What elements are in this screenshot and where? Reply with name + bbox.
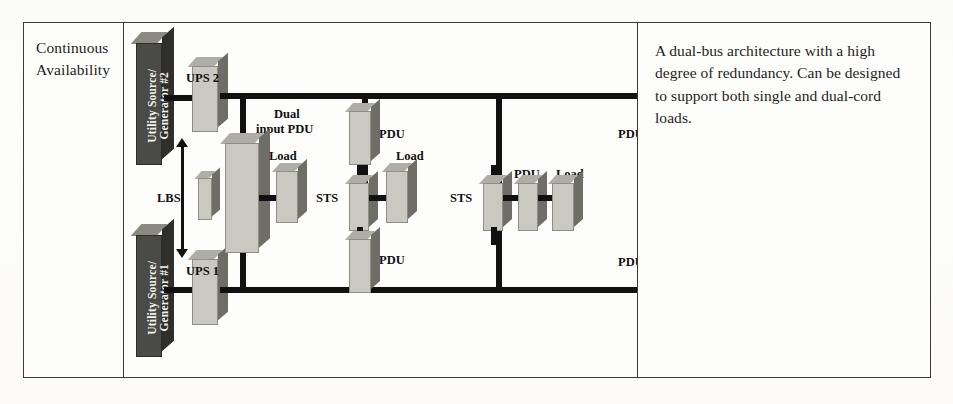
utility-source-1-box: Utility Source/ Generator #1 bbox=[136, 235, 162, 357]
diagram-cell: Utility Source/ Generator #2 Utility Sou… bbox=[124, 23, 638, 377]
sts-left-front-face bbox=[349, 183, 369, 231]
ups-2-side-face bbox=[218, 53, 228, 128]
pdu-bottom-left-box bbox=[349, 239, 371, 293]
load-center-right-side-face bbox=[574, 171, 583, 227]
load-left-side-face bbox=[298, 159, 307, 219]
pdu-top-left-side-face bbox=[371, 99, 380, 161]
lbs-label: LBS bbox=[157, 191, 181, 205]
pdu-top-right-label: PDU bbox=[618, 127, 638, 141]
pdu-mid-right-box bbox=[518, 183, 538, 231]
sts-right-output-stub bbox=[503, 195, 519, 201]
dual-input-pdu-label-line-1: Dual bbox=[274, 107, 300, 121]
dual-input-pdu-front-face bbox=[225, 143, 259, 253]
ups-1-label: UPS 1 bbox=[186, 264, 219, 278]
sts-right-front-face bbox=[483, 183, 503, 231]
dual-input-pdu-side-face bbox=[259, 128, 270, 248]
description-text: A dual-bus architecture with a high degr… bbox=[655, 40, 914, 129]
lbs-front-face bbox=[198, 178, 212, 220]
ups-2-label: UPS 2 bbox=[186, 71, 219, 85]
load-center-right-front-face bbox=[552, 183, 574, 231]
load-center-left-box bbox=[386, 171, 408, 223]
utility-source-2-box: Utility Source/ Generator #2 bbox=[136, 43, 162, 165]
pdu-bottom-right-label: PDU bbox=[618, 255, 638, 269]
dual-input-pdu-box bbox=[225, 143, 259, 253]
pdu-top-left-front-face bbox=[349, 111, 371, 165]
row-label-line-2: Availability bbox=[36, 59, 123, 81]
pdu-mid-right-front-face bbox=[518, 183, 538, 231]
sts-right-label: STS bbox=[450, 191, 472, 205]
pdu-top-left-box bbox=[349, 111, 371, 165]
description-cell: A dual-bus architecture with a high degr… bbox=[638, 23, 930, 377]
pdu-bottom-left-side-face bbox=[371, 227, 380, 289]
lbs-sync-arrow-line bbox=[181, 146, 184, 250]
load-left-front-face bbox=[276, 171, 298, 223]
lbs-sync-arrow-head-up bbox=[176, 138, 188, 147]
top-bus-bar bbox=[220, 93, 638, 99]
bottom-bus-bar bbox=[220, 287, 638, 293]
load-center-left-label: Load bbox=[396, 149, 424, 163]
sts-left-box bbox=[349, 183, 369, 231]
lbs-side-face bbox=[212, 168, 220, 217]
sts-right-box bbox=[483, 183, 503, 231]
dual-bus-architecture-diagram: Utility Source/ Generator #2 Utility Sou… bbox=[124, 23, 637, 377]
lbs-box bbox=[198, 178, 212, 220]
load-center-left-side-face bbox=[408, 159, 417, 219]
sts-left-label: STS bbox=[316, 191, 338, 205]
load-center-left-front-face bbox=[386, 171, 408, 223]
comparison-table-row: Continuous Availability Utility Source/ … bbox=[23, 22, 931, 378]
load-left-box bbox=[276, 171, 298, 223]
ups-1-side-face bbox=[218, 246, 228, 321]
load-center-right-box bbox=[552, 183, 574, 231]
sts-left-output-stub bbox=[369, 195, 387, 201]
utility-source-2-label-line-2: Generator #2 bbox=[158, 56, 172, 156]
utility-source-1-label-line-2: Generator #1 bbox=[158, 248, 172, 348]
pdu-top-left-label: PDU bbox=[379, 127, 405, 141]
load-left-label: Load bbox=[269, 149, 297, 163]
lbs-sync-arrow-head-down bbox=[176, 249, 188, 258]
pdu-bottom-left-label: PDU bbox=[379, 253, 405, 267]
sts-right-to-bottom-pdu-stub bbox=[491, 227, 497, 245]
row-label-line-1: Continuous bbox=[36, 37, 123, 59]
row-label-cell: Continuous Availability bbox=[24, 23, 124, 377]
pdu-bottom-left-front-face bbox=[349, 239, 371, 293]
